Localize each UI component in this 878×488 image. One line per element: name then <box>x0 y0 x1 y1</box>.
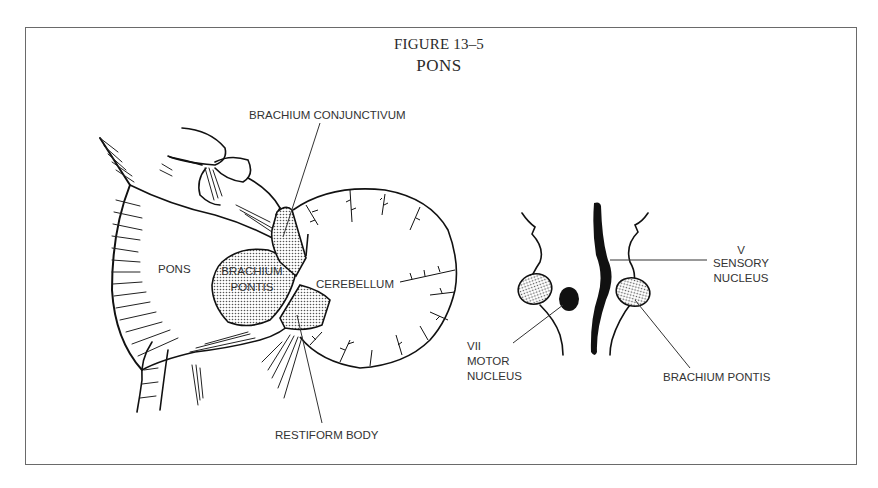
label-v-line2: SENSORY <box>710 256 772 270</box>
label-brachium-pontis-right: BRACHIUM PONTIS <box>663 370 770 384</box>
label-v-line1: V <box>710 243 772 257</box>
brachium-pontis-left-oval <box>514 269 556 309</box>
label-vii-line3: NUCLEUS <box>467 369 522 383</box>
label-restiform-body: RESTIFORM BODY <box>275 428 379 442</box>
label-v-line3: NUCLEUS <box>710 271 772 285</box>
label-vii-line1: VII <box>467 339 481 353</box>
label-brachium-conjunctivum: BRACHIUM CONJUNCTIVUM <box>249 108 406 122</box>
brachium-pontis-right-oval <box>613 274 653 310</box>
label-cerebellum: CEREBELLUM <box>316 277 394 291</box>
label-pons: PONS <box>158 262 191 276</box>
vii-motor-nucleus-region <box>559 287 579 311</box>
label-vii-line2: MOTOR <box>467 354 510 368</box>
label-brachium-pontis-line2: PONTIS <box>215 280 289 294</box>
label-brachium-pontis-line1: BRACHIUM <box>215 264 289 278</box>
v-sensory-nucleus-region <box>591 202 612 355</box>
